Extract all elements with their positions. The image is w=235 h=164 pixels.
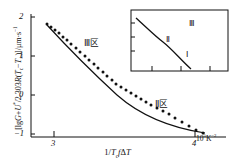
- data-point: [54, 29, 57, 32]
- y-axis-title-text: [lgG+U*/2.303R(Tc−T∞)]/μm·s−1: [14, 27, 23, 130]
- data-point: [66, 39, 69, 42]
- data-point: [174, 117, 177, 120]
- inset-plot: [131, 10, 228, 71]
- data-point: [84, 55, 87, 58]
- data-point: [145, 101, 148, 104]
- inset-frame: [131, 10, 228, 71]
- inset-region-iii-label: Ⅲ: [189, 19, 195, 28]
- inset-region-i-label: Ⅰ: [186, 50, 188, 59]
- y-tick-label-0: 0: [19, 89, 23, 99]
- data-point: [88, 59, 91, 62]
- data-point: [62, 36, 65, 39]
- x-axis-unit-text: 105K−2: [196, 134, 216, 143]
- data-point: [111, 79, 114, 82]
- data-point: [168, 113, 171, 116]
- data-point: [79, 51, 82, 54]
- data-point: [93, 63, 96, 66]
- data-point: [188, 125, 191, 128]
- data-point: [97, 67, 100, 70]
- data-point: [120, 86, 123, 89]
- x-axis-unit-label: 105K−2: [196, 133, 216, 143]
- data-point: [106, 75, 109, 78]
- data-point: [75, 47, 78, 50]
- x-axis-ticks: [54, 131, 195, 137]
- data-point: [115, 83, 118, 86]
- data-point: [130, 92, 133, 95]
- data-point: [195, 129, 198, 132]
- data-point: [125, 89, 128, 92]
- zone-ii-label: Ⅱ区: [155, 97, 169, 109]
- data-point: [102, 71, 105, 74]
- inset-region-ii-label: Ⅱ: [166, 35, 170, 44]
- data-point: [150, 104, 153, 107]
- data-point: [70, 43, 73, 46]
- x-axis-title-text: 1/TcfΔT: [104, 147, 131, 157]
- data-point: [50, 26, 53, 29]
- data-point: [46, 23, 49, 26]
- data-point: [140, 98, 143, 101]
- y-axis-ticks: [31, 17, 35, 134]
- x-axis-title: 1/TcfΔT: [0, 147, 235, 159]
- y-tick-label-minus1: −1: [14, 128, 24, 138]
- figure-container: [lgG+U*/2.303R(Tc−T∞)]/μm·s−1 2 1 0 −1 3…: [0, 0, 235, 164]
- data-point: [162, 110, 165, 113]
- zone-iii-label: Ⅲ区: [84, 36, 100, 48]
- data-point: [135, 95, 138, 98]
- y-tick-label-1: 1: [19, 50, 23, 60]
- data-point: [181, 121, 184, 124]
- data-point: [58, 32, 61, 35]
- y-tick-label-2: 2: [19, 11, 23, 21]
